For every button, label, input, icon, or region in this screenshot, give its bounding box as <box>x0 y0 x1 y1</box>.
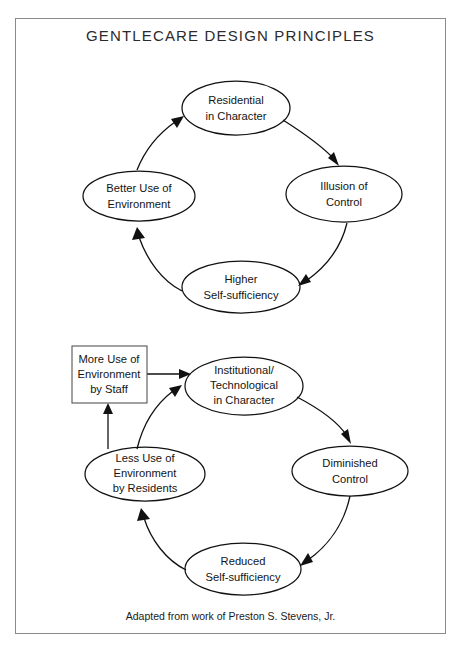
node-more-use-line2: Environment <box>78 368 142 380</box>
node-more-use-of-environment-by-staff[interactable]: More Use of Environment by Staff <box>72 346 147 403</box>
node-illusion-line1: Illusion of <box>320 180 368 192</box>
edge-illusion-to-higher <box>306 223 347 281</box>
node-institutional-line3: in Character <box>214 394 275 406</box>
node-diminished-line1: Diminished <box>322 457 377 469</box>
node-reduced-line2: Self-sufficiency <box>205 571 280 583</box>
node-higher-line1: Higher <box>225 273 258 285</box>
edge-reduced-to-less-use <box>144 518 186 570</box>
node-better-line2: Environment <box>108 198 172 210</box>
edge-better-to-residential <box>137 122 175 170</box>
node-illusion-of-control[interactable]: Illusion of Control <box>286 166 402 222</box>
arrowhead-more-use-to-institutional <box>179 369 191 379</box>
node-institutional-technological-in-character[interactable]: Institutional/ Technological in Characte… <box>185 357 303 415</box>
node-residential-in-character[interactable]: Residential in Character <box>182 81 290 135</box>
node-reduced-line1: Reduced <box>221 555 266 567</box>
node-less-use-line2: Environment <box>114 467 178 479</box>
edge-institutional-to-diminished <box>297 397 347 436</box>
arrowhead-better-to-residential <box>171 116 184 128</box>
node-diminished-line2: Control <box>332 473 368 485</box>
node-institutional-line2: Technological <box>210 379 278 391</box>
node-higher-self-sufficiency[interactable]: Higher Self-sufficiency <box>182 261 300 313</box>
edge-higher-to-better <box>139 237 182 291</box>
node-less-use-line3: by Residents <box>113 482 178 494</box>
arrowhead-institutional-to-diminished <box>341 429 351 444</box>
node-residential-line2: in Character <box>206 110 267 122</box>
node-less-use-of-environment-by-residents[interactable]: Less Use of Environment by Residents <box>85 447 205 501</box>
page-canvas: GENTLECARE DESIGN PRINCIPLES Residential… <box>0 0 472 656</box>
node-residential-line1: Residential <box>208 94 263 106</box>
node-diminished-control[interactable]: Diminished Control <box>292 446 408 496</box>
arrowhead-less-use-to-institutional <box>169 385 182 397</box>
arrowhead-higher-to-better <box>132 227 145 240</box>
arrowhead-reduced-to-less-use <box>137 508 150 521</box>
edge-residential-to-illusion <box>283 120 334 159</box>
node-better-ellipse[interactable] <box>83 171 195 221</box>
node-reduced-self-sufficiency[interactable]: Reduced Self-sufficiency <box>185 543 301 595</box>
node-diminished-ellipse[interactable] <box>292 446 408 496</box>
node-residential-ellipse[interactable] <box>182 81 290 135</box>
causal-loop-diagram: Residential in Character Illusion of Con… <box>0 0 472 656</box>
node-higher-line2: Self-sufficiency <box>203 289 278 301</box>
node-better-line1: Better Use of <box>106 182 172 194</box>
node-less-use-line1: Less Use of <box>115 452 175 464</box>
node-higher-ellipse[interactable] <box>182 261 300 313</box>
node-illusion-line2: Control <box>326 196 362 208</box>
node-better-use-of-environment[interactable]: Better Use of Environment <box>83 171 195 221</box>
node-more-use-line3: by Staff <box>90 383 129 395</box>
source-caption: Adapted from work of Preston S. Stevens,… <box>15 610 446 622</box>
arrowhead-diminished-to-reduced <box>300 553 313 566</box>
node-reduced-ellipse[interactable] <box>185 543 301 595</box>
node-illusion-ellipse[interactable] <box>286 166 402 222</box>
node-institutional-line1: Institutional/ <box>214 364 275 376</box>
node-more-use-line1: More Use of <box>79 353 141 365</box>
arrowhead-less-use-to-more-use <box>103 403 113 414</box>
edge-diminished-to-reduced <box>308 496 350 560</box>
